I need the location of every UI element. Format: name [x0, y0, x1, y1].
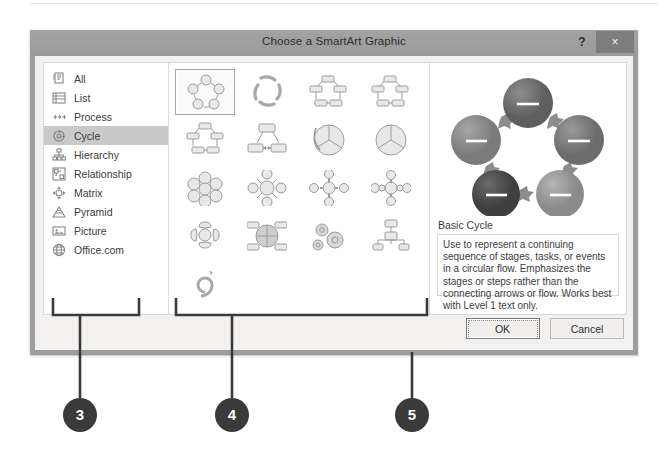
sidebar-item-picture[interactable]: Picture	[44, 221, 168, 240]
all-icon	[52, 72, 66, 86]
callout-badge-4: 4	[215, 398, 249, 432]
sidebar-item-process[interactable]: Process	[44, 107, 168, 126]
callout-badge-5: 5	[395, 398, 429, 432]
sidebar-item-hierarchy[interactable]: Hierarchy	[44, 145, 168, 164]
gallery-item-hierarchy-cycle[interactable]	[361, 213, 421, 259]
page-rule	[30, 3, 658, 4]
sidebar-item-cycle[interactable]: Cycle	[44, 126, 168, 145]
sidebar-item-label: All	[74, 73, 86, 85]
gallery-item-radial-cluster[interactable]	[361, 165, 421, 211]
sidebar-item-label: Relationship	[74, 168, 132, 180]
gallery-item-basic-cycle[interactable]	[175, 69, 235, 115]
gallery-item-multidirectional-cycle[interactable]	[299, 117, 359, 163]
process-icon	[52, 110, 66, 124]
dialog-titlebar: Choose a SmartArt Graphic ? ×	[30, 30, 638, 56]
smartart-dialog: Choose a SmartArt Graphic ? × AllListPro…	[30, 30, 638, 355]
gallery-item-spiral-cycle[interactable]	[175, 261, 235, 307]
sidebar-item-label: Hierarchy	[74, 149, 119, 161]
category-sidebar: AllListProcessCycleHierarchyRelationship…	[44, 63, 169, 314]
sidebar-item-label: Cycle	[74, 130, 100, 142]
sidebar-item-matrix[interactable]: Matrix	[44, 183, 168, 202]
ok-button-label: OK	[468, 320, 538, 339]
gallery-item-block-cycle[interactable]	[299, 69, 359, 115]
sidebar-item-label: Pyramid	[74, 206, 113, 218]
sidebar-item-label: Matrix	[74, 187, 103, 199]
dialog-buttons: OK Cancel	[460, 318, 624, 339]
sidebar-item-pyramid[interactable]: Pyramid	[44, 202, 168, 221]
dialog-panels: AllListProcessCycleHierarchyRelationship…	[43, 62, 627, 315]
close-icon[interactable]: ×	[596, 31, 634, 53]
ok-button[interactable]: OK	[466, 318, 540, 339]
sidebar-item-list[interactable]: List	[44, 88, 168, 107]
gallery-item-cycle-matrix[interactable]	[237, 213, 297, 259]
graphic-gallery[interactable]	[169, 63, 430, 314]
gallery-item-diverging-radial[interactable]	[237, 165, 297, 211]
preview-title: Basic Cycle	[438, 219, 619, 231]
sidebar-item-label: Office.com	[74, 244, 124, 256]
help-icon[interactable]: ?	[574, 34, 590, 51]
globe-icon	[52, 243, 66, 257]
relationship-icon	[52, 167, 66, 181]
gallery-item-continuous-cycle[interactable]	[175, 117, 235, 163]
sidebar-item-all[interactable]: All	[44, 69, 168, 88]
dialog-title: Choose a SmartArt Graphic	[30, 35, 638, 47]
picture-icon	[52, 224, 66, 238]
cycle-icon	[52, 129, 66, 143]
gallery-item-gear[interactable]	[299, 213, 359, 259]
sidebar-item-relationship[interactable]: Relationship	[44, 164, 168, 183]
pyramid-icon	[52, 205, 66, 219]
preview-panel: Basic Cycle Use to represent a continuin…	[430, 63, 626, 314]
gallery-item-non-directional-cycle[interactable]	[361, 69, 421, 115]
matrix-icon	[52, 186, 66, 200]
gallery-item-basic-radial[interactable]	[175, 165, 235, 211]
preview-graphic	[437, 69, 619, 217]
gallery-item-segmented-pyramid[interactable]	[175, 213, 235, 259]
list-icon	[52, 91, 66, 105]
preview-description: Use to represent a continuing sequence o…	[437, 234, 619, 296]
gallery-item-basic-pie[interactable]	[361, 117, 421, 163]
callout-badge-3: 3	[63, 398, 97, 432]
gallery-item-text-cycle[interactable]	[237, 69, 297, 115]
sidebar-item-label: List	[74, 92, 90, 104]
cancel-button[interactable]: Cancel	[550, 318, 624, 339]
sidebar-item-label: Picture	[74, 225, 107, 237]
gallery-item-segmented-cycle[interactable]	[237, 117, 297, 163]
sidebar-item-label: Process	[74, 111, 112, 123]
gallery-item-radial-venn[interactable]	[299, 165, 359, 211]
dialog-client-area: AllListProcessCycleHierarchyRelationship…	[35, 56, 633, 350]
hierarchy-icon	[52, 148, 66, 162]
sidebar-item-office-com[interactable]: Office.com	[44, 240, 168, 259]
